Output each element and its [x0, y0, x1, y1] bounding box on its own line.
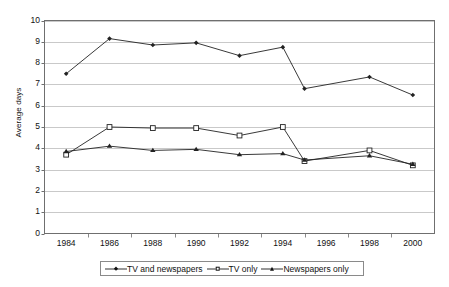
series-tv-only	[64, 125, 415, 168]
data-point-diamond	[367, 75, 372, 80]
y-tick-label: 10	[14, 16, 40, 25]
legend-label: Newspapers only	[283, 264, 358, 274]
x-tick-label: 2000	[393, 238, 433, 248]
x-tick-label: 1990	[176, 238, 216, 248]
chart-legend: TV and newspapers TV only Newspapers onl…	[100, 261, 364, 276]
legend-label: TV and newspapers	[127, 264, 205, 274]
gridlines	[45, 22, 435, 213]
y-tick-label: 8	[14, 58, 40, 67]
y-tick-label: 1	[14, 207, 40, 216]
data-point-diamond	[237, 53, 242, 58]
series-tv-and-newspapers	[64, 36, 415, 97]
data-point-square	[367, 148, 372, 153]
data-point-square	[194, 126, 199, 131]
series-newspapers-only	[63, 143, 415, 166]
legend-label: TV only	[229, 264, 260, 274]
data-point-square	[280, 125, 285, 130]
y-tick-label: 3	[14, 165, 40, 174]
x-tick-label: 1998	[350, 238, 390, 248]
y-tick-label: 6	[14, 101, 40, 110]
legend-item-tv-and-newspapers[interactable]: TV and newspapers	[105, 264, 205, 274]
data-point-triangle	[367, 153, 372, 157]
legend-item-newspapers-only[interactable]: Newspapers only	[261, 264, 358, 274]
y-axis-tick-labels: 012345678910	[10, 0, 40, 287]
axis-ticks	[42, 22, 392, 238]
x-tick-label: 1994	[263, 238, 303, 248]
y-tick-label: 4	[14, 143, 40, 152]
y-tick-label: 9	[14, 37, 40, 46]
legend-marker-triangle-icon	[261, 264, 283, 274]
legend-item-tv-only[interactable]: TV only	[207, 264, 260, 274]
data-point-square	[150, 126, 155, 131]
data-point-diamond	[411, 93, 416, 98]
data-point-diamond	[151, 43, 156, 48]
data-point-triangle	[107, 143, 112, 147]
x-tick-label: 1984	[46, 238, 86, 248]
data-point-diamond	[194, 41, 199, 46]
x-tick-label: 1996	[306, 238, 346, 248]
y-tick-label: 2	[14, 186, 40, 195]
legend-marker-square-icon	[207, 264, 229, 274]
chart-figure: Average days 012345678910 19841986198819…	[0, 0, 449, 287]
y-tick-label: 5	[14, 122, 40, 131]
x-tick-label: 1986	[90, 238, 130, 248]
series-line	[66, 39, 413, 95]
x-tick-label: 1992	[220, 238, 260, 248]
data-point-triangle	[280, 151, 285, 155]
data-point-diamond	[302, 86, 307, 91]
y-tick-label: 0	[14, 229, 40, 238]
y-tick-label: 7	[14, 79, 40, 88]
data-point-square	[237, 133, 242, 138]
legend-marker-diamond-icon	[105, 264, 127, 274]
data-point-square	[107, 125, 112, 130]
x-tick-label: 1988	[133, 238, 173, 248]
data-point-diamond	[281, 45, 286, 50]
